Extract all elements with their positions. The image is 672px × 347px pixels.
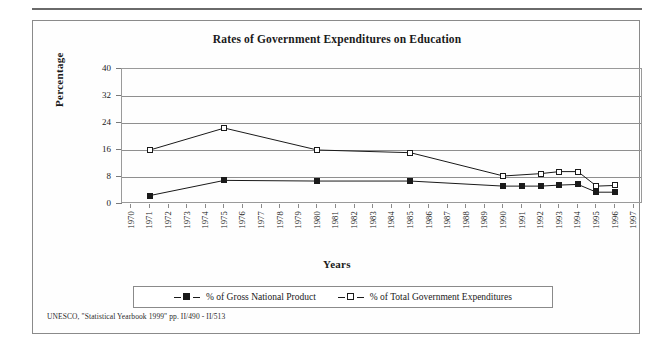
x-axis-tick-label: 1989 [479, 211, 489, 229]
x-axis-tick [205, 204, 206, 208]
data-point-marker [538, 171, 544, 177]
x-axis-tick-label: 1997 [628, 211, 638, 229]
legend-entry: % of Gross National Product [174, 292, 316, 302]
x-axis-tick-label: 1993 [554, 211, 564, 229]
data-point-marker [575, 169, 581, 175]
x-axis-tick [261, 204, 262, 208]
chart-legend: % of Gross National Product% of Total Go… [133, 286, 553, 308]
data-point-marker [221, 125, 227, 131]
x-axis-tick [149, 204, 150, 208]
x-axis-tick-label: 1976 [237, 211, 247, 229]
x-axis-tick [168, 204, 169, 208]
y-axis-tick-label: 40 [85, 63, 111, 73]
x-axis-tick [614, 204, 615, 208]
data-point-marker [556, 182, 562, 188]
x-axis-tick-label: 1996 [610, 211, 620, 229]
plot-area [122, 69, 641, 202]
x-axis-tick [484, 204, 485, 208]
data-point-marker [612, 182, 618, 188]
x-axis-tick-label: 1977 [256, 211, 266, 229]
x-axis-tick [502, 204, 503, 208]
x-axis-tick [633, 204, 634, 208]
chart-title: Rates of Government Expenditures on Educ… [33, 33, 641, 45]
x-axis-tick [521, 204, 522, 208]
x-axis-tick-label: 1995 [591, 211, 601, 229]
x-axis-tick [540, 204, 541, 208]
x-axis-tick [465, 204, 466, 208]
data-point-marker [221, 177, 227, 183]
x-axis-tick [354, 204, 355, 208]
data-point-marker [612, 189, 618, 195]
x-axis-tick-label: 1992 [535, 211, 545, 229]
series-line [150, 180, 615, 195]
x-axis-tick [577, 204, 578, 208]
filled-square-icon [174, 292, 200, 302]
data-point-marker [500, 183, 506, 189]
source-note: UNESCO, "Statistical Yearbook 1999" pp. … [47, 312, 225, 321]
x-axis-tick-label: 1987 [442, 211, 452, 229]
data-point-marker [407, 150, 413, 156]
legend-label: % of Total Government Expenditures [370, 292, 512, 302]
legend-entry: % of Total Government Expenditures [338, 292, 512, 302]
x-axis-tick-label: 1990 [498, 211, 508, 229]
x-axis-tick [372, 204, 373, 208]
x-axis-tick [130, 204, 131, 208]
data-point-marker [538, 183, 544, 189]
x-axis-tick-label: 1991 [517, 211, 527, 229]
x-axis-tick-label: 1971 [144, 211, 154, 229]
x-axis-tick-label: 1994 [572, 211, 582, 229]
y-axis-tick-label: 8 [85, 171, 111, 181]
x-axis-tick-label: 1982 [349, 211, 359, 229]
y-axis-tick-label: 16 [85, 144, 111, 154]
x-axis-tick-label: 1984 [386, 211, 396, 229]
x-axis-tick [223, 204, 224, 208]
data-point-marker [314, 178, 320, 184]
y-axis-tick-label: 0 [85, 198, 111, 208]
y-axis-tick-label: 32 [85, 90, 111, 100]
series-line [150, 128, 615, 186]
x-axis-tick [335, 204, 336, 208]
data-point-marker [575, 181, 581, 187]
legend-label: % of Gross National Product [206, 292, 316, 302]
x-axis-tick-label: 1974 [200, 211, 210, 229]
x-axis-tick-label: 1970 [126, 211, 136, 229]
x-axis-tick-label: 1983 [368, 211, 378, 229]
series-lines [122, 69, 643, 204]
x-axis-tick [447, 204, 448, 208]
data-point-marker [593, 189, 599, 195]
x-axis-tick [595, 204, 596, 208]
data-point-marker [519, 183, 525, 189]
x-axis-tick-label: 1981 [330, 211, 340, 229]
x-axis-tick [186, 204, 187, 208]
page-top-rule [32, 8, 642, 10]
x-axis-tick [558, 204, 559, 208]
x-axis-tick [242, 204, 243, 208]
y-axis-tick [116, 203, 121, 204]
x-axis-tick [316, 204, 317, 208]
data-point-marker [147, 147, 153, 153]
x-axis-tick [428, 204, 429, 208]
x-axis-tick [298, 204, 299, 208]
y-axis-title: Percentage [53, 52, 65, 107]
open-square-icon [338, 292, 364, 302]
plot-frame [121, 68, 642, 203]
figure-container: Rates of Government Expenditures on Educ… [32, 20, 640, 334]
data-point-marker [314, 147, 320, 153]
data-point-marker [500, 173, 506, 179]
x-axis-tick-label: 1978 [275, 211, 285, 229]
x-axis-title: Years [33, 258, 641, 270]
x-axis-tick [279, 204, 280, 208]
x-axis-tick-label: 1986 [424, 211, 434, 229]
x-axis-tick-label: 1975 [219, 211, 229, 229]
x-axis-tick-label: 1985 [405, 211, 415, 229]
figure-page: Rates of Government Expenditures on Educ… [0, 0, 672, 347]
x-axis-tick [391, 204, 392, 208]
x-axis-tick-label: 1979 [293, 211, 303, 229]
data-point-marker [593, 183, 599, 189]
x-axis-tick-label: 1972 [163, 211, 173, 229]
y-axis-tick-label: 24 [85, 117, 111, 127]
x-axis-tick-label: 1980 [312, 211, 322, 229]
x-axis-tick [409, 204, 410, 208]
data-point-marker [147, 193, 153, 199]
x-axis-tick-label: 1988 [461, 211, 471, 229]
